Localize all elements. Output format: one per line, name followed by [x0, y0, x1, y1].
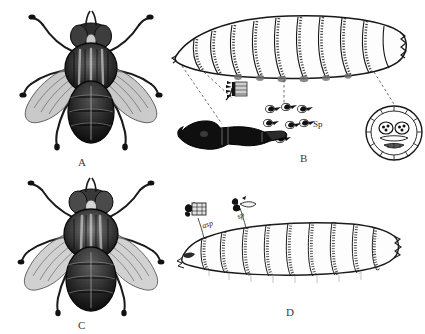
panel-letter-c: C — [78, 319, 86, 331]
larva-icon — [172, 16, 406, 83]
panel-letter-d: D — [286, 306, 294, 318]
spiracular-plate-icon — [366, 106, 422, 160]
panel-letter-b: B — [300, 152, 308, 164]
panel-b-art — [168, 6, 420, 166]
fly-abdomen — [66, 247, 116, 311]
panel-a: A — [16, 8, 166, 153]
larva-icon — [177, 222, 401, 283]
panel-b: Sp B — [168, 6, 420, 166]
figure-plate: A — [0, 0, 425, 334]
fly-icon — [16, 176, 166, 318]
panel-c: C — [16, 176, 166, 318]
fly-abdomen — [68, 81, 114, 143]
label-spiracle-b: Sp — [313, 119, 323, 129]
fly-icon — [16, 8, 166, 153]
panel-d-art — [176, 196, 416, 326]
panel-letter-a: A — [78, 156, 86, 168]
panel-d: asp sp D — [176, 196, 416, 326]
spiracle-icon — [226, 81, 247, 100]
